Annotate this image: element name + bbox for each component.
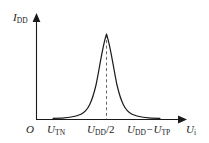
- tick-label-utn-main: U: [47, 123, 55, 135]
- y-axis-label-sub: DD: [17, 16, 28, 25]
- x-axis-label-sub: i: [194, 128, 196, 137]
- x-axis-label: Ui: [186, 124, 196, 135]
- tick-label-uddutp: UDD−UTP: [127, 124, 170, 135]
- tick-label-uddutp-sub: DD: [135, 128, 146, 137]
- tick-label-origin-text: O: [26, 123, 34, 135]
- x-axis-label-main: U: [186, 123, 194, 135]
- tick-label-uddutp-suffix: −U: [146, 123, 161, 135]
- tick-label-utn-sub: TN: [55, 128, 65, 137]
- tick-label-uddutp-main: U: [127, 123, 135, 135]
- tick-label-utn: UTN: [47, 124, 65, 135]
- tick-label-uddutp-sub2: TP: [161, 128, 170, 137]
- y-axis-arrowhead: [33, 13, 41, 22]
- tick-label-udd2-suffix: /2: [106, 123, 115, 135]
- tick-label-udd2-main: U: [87, 123, 95, 135]
- tick-label-udd2: UDD/2: [87, 124, 115, 135]
- y-axis: [33, 13, 41, 120]
- tick-label-udd2-sub: DD: [95, 128, 106, 137]
- figure-container: IDD O UTN UDD/2 UDD−UTP Ui: [0, 0, 209, 143]
- y-axis-label: IDD: [13, 12, 28, 23]
- tick-label-origin: O: [26, 124, 34, 135]
- chart-canvas: [0, 0, 209, 143]
